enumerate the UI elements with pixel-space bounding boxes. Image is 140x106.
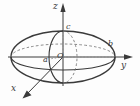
semi-axis-c-label: c (66, 23, 70, 31)
z-axis-label: z (53, 2, 58, 11)
ellipsoid-drawing (0, 0, 140, 106)
x-axis-arrowhead (23, 91, 32, 99)
origin-label: O (57, 52, 64, 60)
semi-axis-a-label: a (43, 56, 48, 64)
y-axis-label: y (121, 61, 126, 70)
y-axis-arrowhead (124, 54, 133, 59)
ellipsoid-figure: z c b y a O x (0, 0, 140, 106)
x-axis-label: x (11, 84, 16, 93)
z-axis-arrowhead (60, 3, 65, 12)
semi-axis-b-label: b (108, 40, 113, 48)
z-axis (60, 3, 65, 86)
